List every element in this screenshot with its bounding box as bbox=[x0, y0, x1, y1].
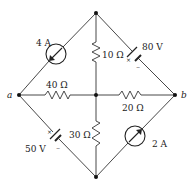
voltage-source-80v: × − bbox=[126, 47, 141, 70]
label-50v: 50 V bbox=[25, 144, 46, 154]
label-40ohm: 40 Ω bbox=[46, 80, 68, 90]
node-bottom bbox=[94, 175, 98, 179]
wire-4a-source-to-top bbox=[63, 13, 96, 47]
label-4a: 4 A bbox=[36, 38, 52, 48]
label-10ohm: 10 Ω bbox=[102, 50, 124, 60]
node-center bbox=[94, 93, 98, 97]
current-source-2a bbox=[125, 126, 145, 146]
wire-a-to-4a-source bbox=[19, 61, 49, 95]
resistor-40ohm bbox=[45, 91, 70, 99]
resistor-10ohm bbox=[92, 42, 100, 62]
node-a bbox=[17, 93, 21, 97]
label-20ohm: 20 Ω bbox=[122, 103, 144, 113]
resistor-30ohm bbox=[92, 121, 100, 146]
node-b bbox=[173, 93, 177, 97]
wire-a-to-50v bbox=[19, 95, 53, 132]
minus-marker: − bbox=[56, 145, 60, 151]
plus-marker: × bbox=[126, 56, 131, 63]
wire-top-to-80v bbox=[96, 13, 132, 51]
label-80v: 80 V bbox=[142, 42, 163, 52]
label-30ohm: 30 Ω bbox=[69, 130, 91, 140]
plus-marker: × bbox=[47, 128, 52, 135]
wire-bottom-to-2a bbox=[96, 143, 128, 177]
wire-50v-to-bottom bbox=[59, 139, 96, 177]
wire-80v-to-b bbox=[138, 58, 175, 95]
minus-marker: − bbox=[136, 64, 140, 70]
circuit-diagram: × − × − a b 4 A 80 V 10 Ω 40 Ω 20 Ω 50 V… bbox=[0, 0, 194, 185]
node-top bbox=[94, 11, 98, 15]
node-b-label: b bbox=[181, 90, 187, 100]
wire-2a-to-b bbox=[142, 95, 175, 129]
node-a-label: a bbox=[7, 90, 12, 100]
resistor-20ohm bbox=[119, 91, 141, 99]
label-2a: 2 A bbox=[152, 139, 168, 149]
